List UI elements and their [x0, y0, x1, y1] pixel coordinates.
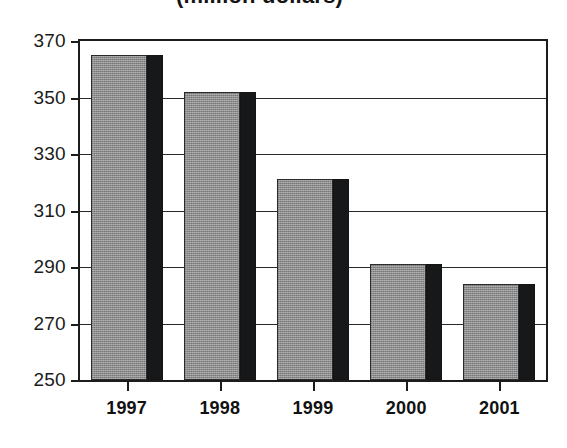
x-tick-mark — [127, 380, 129, 391]
x-axis-label-1999: 1999 — [293, 398, 334, 419]
x-axis-label-1998: 1998 — [199, 398, 240, 419]
y-axis-label: 350 — [33, 87, 66, 109]
y-tick-mark — [71, 98, 80, 100]
y-tick-mark — [71, 211, 80, 213]
bar-1998 — [184, 83, 256, 380]
y-axis-label: 270 — [33, 313, 66, 335]
bar-2000 — [370, 255, 442, 380]
x-tick-mark — [220, 380, 222, 391]
y-tick-mark — [71, 267, 80, 269]
bar-shadow — [240, 92, 256, 380]
chart-figure: (million dollars) 250270290310330350370 … — [0, 0, 567, 448]
y-axis-label: 370 — [33, 30, 66, 52]
chart-title: (million dollars) — [0, 0, 567, 9]
y-axis-label: 250 — [33, 369, 66, 391]
bar-face — [277, 179, 333, 380]
x-axis-label-1997: 1997 — [106, 398, 147, 419]
x-axis-label-2000: 2000 — [386, 398, 427, 419]
bar-shadow — [147, 55, 163, 380]
y-axis-label: 330 — [33, 143, 66, 165]
bar-1999 — [277, 170, 349, 380]
bar-shadow — [333, 179, 349, 380]
bar-face — [184, 92, 240, 380]
x-axis-label-2001: 2001 — [479, 398, 520, 419]
bar-shadow — [519, 284, 535, 380]
y-tick-mark — [71, 380, 80, 382]
x-tick-mark — [406, 380, 408, 391]
x-tick-mark — [313, 380, 315, 391]
bar-1997 — [91, 46, 163, 380]
bar-shadow — [426, 264, 442, 380]
plot-area: 250270290310330350370 199719981999200020… — [78, 39, 548, 382]
y-tick-mark — [71, 324, 80, 326]
bar-face — [370, 264, 426, 380]
y-axis-label: 290 — [33, 256, 66, 278]
chart-title-clip: (million dollars) — [0, 0, 567, 14]
bar-face — [91, 55, 147, 380]
x-tick-mark — [499, 380, 501, 391]
bar-face — [463, 284, 519, 380]
y-axis-label: 310 — [33, 200, 66, 222]
bar-2001 — [463, 275, 535, 380]
y-tick-mark — [71, 41, 80, 43]
y-tick-mark — [71, 154, 80, 156]
